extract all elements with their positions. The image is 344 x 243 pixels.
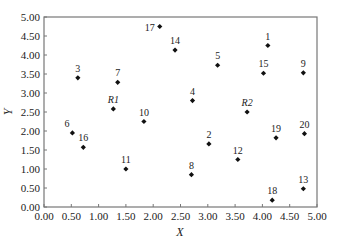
data-point: 20: [299, 119, 309, 137]
data-point: R1: [107, 94, 119, 112]
data-point: 8: [189, 160, 194, 178]
plot-frame: [44, 17, 317, 207]
x-tick-label: 0.50: [62, 210, 82, 222]
data-point: 5: [215, 50, 220, 68]
y-tick-label: 4.00: [21, 49, 41, 61]
diamond-marker-icon: [81, 145, 86, 150]
y-tick-label: 5.00: [21, 11, 41, 23]
data-point: 6: [64, 118, 75, 136]
x-tick-label: 4.00: [253, 210, 273, 222]
point-label: 7: [115, 67, 120, 78]
diamond-marker-icon: [123, 166, 128, 171]
diamond-marker-icon: [111, 106, 116, 111]
point-label: 4: [190, 86, 195, 97]
diamond-marker-icon: [115, 80, 120, 85]
point-label: 14: [170, 35, 180, 46]
diamond-marker-icon: [75, 75, 80, 80]
diamond-marker-icon: [70, 130, 75, 135]
data-point: 11: [121, 154, 131, 172]
chart-canvas: 0.000.501.001.502.002.503.003.504.004.50…: [0, 0, 344, 243]
diamond-marker-icon: [265, 43, 270, 48]
point-label: 16: [78, 132, 88, 143]
diamond-marker-icon: [141, 119, 146, 124]
scatter-chart: 0.000.501.001.502.002.503.003.504.004.50…: [0, 0, 344, 243]
data-point: 14: [170, 35, 180, 53]
data-point: 3: [75, 63, 80, 81]
x-tick-label: 5.00: [307, 210, 327, 222]
diamond-marker-icon: [157, 24, 162, 29]
data-point: 1: [265, 31, 270, 49]
point-label: R1: [107, 94, 119, 105]
diamond-marker-icon: [172, 47, 177, 52]
data-point: 19: [271, 123, 281, 141]
data-point: 15: [258, 58, 268, 76]
data-point: 7: [115, 67, 120, 85]
y-axis-label: Y: [1, 107, 15, 115]
y-tick-label: 3.50: [21, 68, 41, 80]
data-point: 18: [267, 185, 277, 203]
data-point: 13: [298, 174, 308, 192]
x-tick-label: 3.00: [198, 210, 218, 222]
y-tick-label: 2.00: [21, 125, 41, 137]
point-label: 12: [233, 145, 243, 156]
point-label: 2: [206, 129, 211, 140]
y-tick-label: 2.50: [21, 106, 41, 118]
y-tick-label: 3.00: [21, 87, 41, 99]
point-label: 10: [139, 107, 149, 118]
data-point: 17: [145, 22, 163, 33]
data-point: 16: [78, 132, 88, 150]
point-label: 17: [145, 22, 155, 33]
data-point: 10: [139, 107, 149, 125]
point-label: 15: [258, 58, 268, 69]
data-point: 9: [301, 58, 306, 76]
y-tick-label: 0.50: [21, 182, 41, 194]
diamond-marker-icon: [235, 157, 240, 162]
y-tick-label: 1.00: [21, 163, 41, 175]
point-label: 13: [298, 174, 308, 185]
diamond-marker-icon: [206, 141, 211, 146]
point-label: 9: [301, 58, 306, 69]
point-label: 3: [75, 63, 80, 74]
plot-border: [44, 17, 317, 207]
data-points: 1234567891011121314151617181920R1R2: [64, 22, 309, 203]
diamond-marker-icon: [301, 70, 306, 75]
point-label: 11: [121, 154, 131, 165]
point-label: 20: [299, 119, 309, 130]
point-label: 18: [267, 185, 277, 196]
diamond-marker-icon: [189, 172, 194, 177]
diamond-marker-icon: [190, 98, 195, 103]
point-label: 19: [271, 123, 281, 134]
point-label: 1: [265, 31, 270, 42]
point-label: 6: [64, 118, 69, 129]
diamond-marker-icon: [270, 198, 275, 203]
data-point: 12: [233, 145, 243, 163]
diamond-marker-icon: [273, 135, 278, 140]
point-label: R2: [241, 97, 253, 108]
x-axis-label: X: [175, 225, 184, 239]
x-tick-label: 4.50: [280, 210, 300, 222]
y-axis-ticks: 0.000.501.001.502.002.503.003.504.004.50…: [21, 11, 47, 213]
diamond-marker-icon: [245, 109, 250, 114]
diamond-marker-icon: [301, 186, 306, 191]
diamond-marker-icon: [261, 71, 266, 76]
diamond-marker-icon: [215, 63, 220, 68]
x-tick-label: 2.00: [144, 210, 164, 222]
y-tick-label: 1.50: [21, 144, 41, 156]
point-label: 8: [189, 160, 194, 171]
x-tick-label: 2.50: [171, 210, 191, 222]
point-label: 5: [215, 50, 220, 61]
data-point: R2: [241, 97, 253, 115]
y-tick-label: 0.00: [21, 201, 41, 213]
data-point: 4: [190, 86, 195, 104]
diamond-marker-icon: [302, 131, 307, 136]
y-tick-label: 4.50: [21, 30, 41, 42]
x-tick-label: 3.50: [225, 210, 245, 222]
x-tick-label: 1.50: [116, 210, 136, 222]
data-point: 2: [206, 129, 211, 147]
x-tick-label: 1.00: [89, 210, 109, 222]
